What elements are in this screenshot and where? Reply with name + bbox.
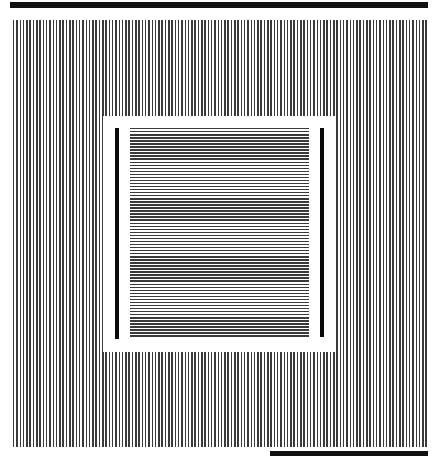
left-black-bar	[115, 128, 119, 339]
bottom-black-bar	[270, 451, 428, 456]
right-black-bar	[320, 128, 324, 337]
top-black-bar	[10, 2, 428, 8]
horizontal-line-grating	[130, 128, 309, 338]
